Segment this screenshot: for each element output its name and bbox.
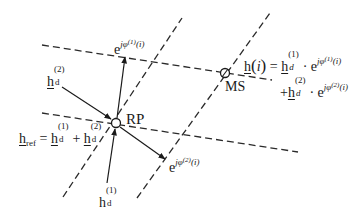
label-hi-equation-line1: h(i) = h(1)d · ejφ(1)(i) [244, 57, 341, 74]
label-hd2-base: h [47, 74, 54, 89]
hi-l2-exponent: jφ(2)(i) [324, 82, 348, 92]
label-e-phi2-sup: (2) [183, 156, 191, 164]
href-lhs-sub: ref [26, 138, 36, 148]
label-e-phi1-sup: (1) [128, 38, 136, 46]
label-hi-equation-line2: +h(2)d · ejφ(2)(i) [280, 83, 348, 100]
arrow-hd1 [107, 129, 115, 183]
label-hd1-indices: (1)d [106, 193, 117, 207]
hi-l2-indices: (2)d [295, 83, 306, 97]
hi-l1-exp-sup: (1) [325, 55, 333, 63]
label-hd1-sup: (1) [106, 186, 117, 195]
href-t2-base: h [84, 131, 91, 146]
arrow-hd2 [62, 87, 111, 119]
label-ms-text: MS [225, 79, 245, 94]
href-t1-sub: d [59, 135, 64, 144]
href-equals: = [40, 131, 48, 146]
hi-l1-indices: (1)d [288, 57, 299, 71]
label-e-phi1-arg: (i) [136, 39, 145, 49]
hi-paren-close: ) [261, 56, 267, 75]
hi-l1-exponent: jφ(1)(i) [317, 56, 341, 66]
label-ms: MS [225, 80, 245, 94]
href-t1-indices: (1)d [58, 129, 69, 143]
label-hd2: h(2)d [47, 72, 65, 89]
label-e-phi2: ejφ(2)(i) [169, 161, 199, 175]
hi-l1-exp-arg: (i) [333, 56, 342, 66]
label-rp-text: RP [126, 111, 144, 127]
hi-l1-base: h [281, 59, 288, 74]
hi-l1-sup: (1) [288, 50, 299, 59]
label-e-phi2-phi: φ [178, 157, 183, 167]
label-hd1-sub: d [107, 199, 112, 208]
label-hd1: h(1)d [99, 193, 117, 210]
label-e-phi1-exponent: jφ(1)(i) [120, 39, 144, 49]
label-e-phi1: ejφ(1)(i) [114, 43, 144, 57]
href-t1-sup: (1) [58, 122, 69, 131]
label-e-phi2-arg: (i) [191, 157, 200, 167]
hi-equals: = [270, 59, 278, 74]
hi-l2-exp-sup: (2) [331, 81, 339, 89]
hi-l2-sup: (2) [295, 76, 306, 85]
label-hd2-indices: (2)d [54, 72, 65, 86]
href-t1-base: h [51, 131, 58, 146]
dashed-line-right-diagonal [137, 13, 270, 198]
hi-l2-dot: · [309, 85, 314, 100]
label-e-phi1-phi: φ [123, 39, 128, 49]
label-hd1-base: h [99, 195, 106, 210]
href-t2-sub: d [92, 135, 97, 144]
dashed-line-upper [42, 45, 272, 80]
label-hd2-sup: (2) [54, 65, 65, 74]
hi-l2-plus: + [280, 85, 288, 100]
hi-l2-sub: d [296, 89, 301, 98]
label-hd2-sub: d [55, 78, 60, 87]
hi-lhs-base: h [244, 59, 251, 74]
label-href-equation: href = h(1)d + h(2)d [19, 129, 102, 146]
hi-l2-exp-arg: (i) [339, 82, 348, 92]
href-lhs-base: h [19, 131, 26, 146]
hi-l1-dot: · [303, 59, 308, 74]
hi-l1-exp: jφ [317, 56, 324, 66]
rp-point [112, 119, 121, 128]
href-t2-sup: (2) [91, 122, 102, 131]
href-t2-indices: (2)d [91, 129, 102, 143]
label-rp: RP [126, 112, 144, 127]
label-e-phi2-exponent: jφ(2)(i) [175, 157, 199, 167]
hi-l1-sub: d [289, 63, 294, 72]
hi-l2-base: h [288, 85, 295, 100]
href-plus: + [72, 131, 80, 146]
arrow-e-phi2 [120, 127, 165, 159]
diagram-canvas [0, 0, 363, 223]
